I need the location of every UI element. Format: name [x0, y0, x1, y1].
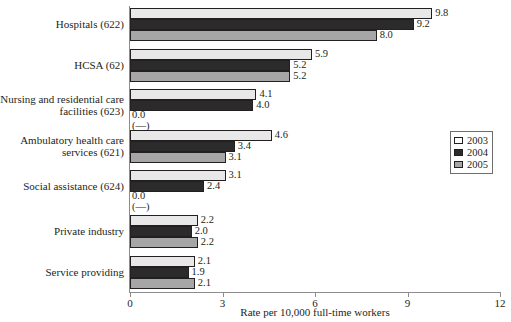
category-label-line: Service providing — [0, 266, 124, 278]
suppressed-marker: (—) — [132, 201, 150, 213]
category-label: Social assistance (624) — [0, 180, 124, 192]
bar-chart: Hospitals (622)9.89.28.0HCSA (62)5.95.25… — [0, 0, 511, 322]
category-label: Service providing — [0, 266, 124, 278]
bar-2004[interactable] — [130, 267, 189, 278]
bar-2005[interactable] — [130, 152, 226, 163]
bar-2005[interactable] — [130, 71, 290, 82]
legend: 200320042005 — [450, 131, 493, 174]
bar-value-label: 9.2 — [417, 18, 430, 30]
bar-2005[interactable] — [130, 237, 198, 248]
category-label-line: Hospitals (622) — [0, 18, 124, 30]
category-label: Private industry — [0, 225, 124, 237]
legend-label: 2004 — [467, 147, 488, 158]
legend-item-2004[interactable]: 2004 — [454, 147, 488, 158]
bar-value-label: 2.4 — [207, 180, 220, 192]
category-label-line: facilities (623) — [0, 105, 124, 117]
bar-value-label: 5.2 — [293, 70, 306, 82]
bar-value-label: 0.0(—) — [132, 109, 150, 132]
x-axis-title: Rate per 10,000 full-time workers — [130, 306, 500, 318]
category-label-line: Private industry — [0, 225, 124, 237]
legend-item-2005[interactable]: 2005 — [454, 159, 488, 170]
bar-2004[interactable] — [130, 226, 192, 237]
bar-value-label: 0.0(—) — [132, 190, 150, 213]
bar-2003[interactable] — [130, 8, 432, 19]
bar-2005[interactable] — [130, 30, 377, 41]
category-label-line: Ambulatory health care — [0, 134, 124, 146]
category-label: Hospitals (622) — [0, 18, 124, 30]
bar-value-label: 2.1 — [198, 277, 211, 289]
legend-label: 2003 — [467, 135, 488, 146]
legend-label: 2005 — [467, 159, 488, 170]
bar-value-label: 9.8 — [435, 7, 448, 19]
category-label-line: Nursing and residential care — [0, 93, 124, 105]
bar-value-label: 4.0 — [256, 99, 269, 111]
bar-2003[interactable] — [130, 89, 256, 100]
legend-item-2003[interactable]: 2003 — [454, 135, 488, 146]
bar-value-label: 8.0 — [380, 29, 393, 41]
bar-value-label: 2.2 — [201, 236, 214, 248]
bar-value-label: 3.1 — [229, 151, 242, 163]
category-label-line: Social assistance (624) — [0, 180, 124, 192]
legend-swatch-icon — [454, 137, 463, 144]
bar-value-label: 5.9 — [315, 48, 328, 60]
legend-swatch-icon — [454, 149, 463, 156]
category-label: Ambulatory health careservices (621) — [0, 134, 124, 158]
category-label: HCSA (62) — [0, 59, 124, 71]
bar-value-label: 4.6 — [275, 129, 288, 141]
bar-2003[interactable] — [130, 49, 312, 60]
legend-swatch-icon — [454, 161, 463, 168]
category-label-line: services (621) — [0, 146, 124, 158]
category-label: Nursing and residential carefacilities (… — [0, 93, 124, 117]
bar-2005[interactable] — [130, 278, 195, 289]
bar-2003[interactable] — [130, 215, 198, 226]
category-label-line: HCSA (62) — [0, 59, 124, 71]
bar-2004[interactable] — [130, 141, 235, 152]
bar-2004[interactable] — [130, 19, 414, 30]
bar-value-label: 3.1 — [229, 169, 242, 181]
bar-2004[interactable] — [130, 60, 290, 71]
bar-2003[interactable] — [130, 256, 195, 267]
